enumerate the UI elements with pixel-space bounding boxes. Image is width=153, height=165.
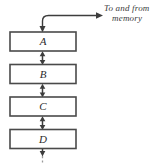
connector-a-to-b — [40, 51, 46, 65]
memory-annotation-line1: To and from — [104, 3, 150, 13]
continuation — [40, 149, 46, 164]
connector-c-to-d-up-arrowhead — [40, 116, 46, 121]
continuation-down-arrowhead — [40, 151, 46, 157]
register-a-label: A — [39, 35, 47, 47]
register-c: C — [10, 97, 76, 116]
register-b: B — [10, 65, 76, 84]
memory-annotation: To and from memory — [104, 3, 150, 23]
register-c-label: C — [39, 100, 47, 112]
register-a: A — [10, 32, 76, 51]
register-b-label: B — [40, 68, 47, 80]
memory-bus-path — [43, 16, 97, 31]
diagram-canvas: To and from memory A B C — [0, 0, 153, 165]
register-d-label: D — [38, 133, 47, 145]
connector-a-to-b-up-arrowhead — [40, 51, 46, 56]
memory-annotation-line2: memory — [112, 13, 142, 23]
memory-bus — [40, 12, 104, 32]
register-d: D — [10, 130, 76, 149]
connector-c-to-d — [40, 116, 46, 130]
connector-b-to-c-up-arrowhead — [40, 84, 46, 89]
connector-b-to-c — [40, 84, 46, 98]
memory-bus-right-arrowhead — [96, 12, 103, 18]
